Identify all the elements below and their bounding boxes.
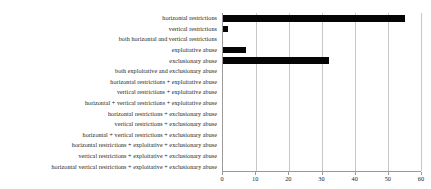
bar-chart: horizontal restrictionsvertical restrict… <box>0 0 431 189</box>
bar <box>223 26 228 33</box>
category-label: horizontal restrictions <box>0 13 220 24</box>
x-tick-label: 10 <box>252 176 258 182</box>
category-label: exploitative abuse <box>0 45 220 56</box>
bar-row <box>223 160 421 171</box>
bar-row <box>223 129 421 140</box>
category-label: vertical restrictions <box>0 24 220 35</box>
category-axis: horizontal restrictionsvertical restrict… <box>0 13 220 172</box>
category-label: horizontal restrictions + exploitative a… <box>0 77 220 88</box>
x-tick-label: 30 <box>318 176 324 182</box>
x-tick-label: 50 <box>385 176 391 182</box>
category-label: both horizontal and vertical restriction… <box>0 34 220 45</box>
category-label: horizontal + vertical restrictions + exc… <box>0 130 220 141</box>
category-label: vertical restrictions + exploitative + e… <box>0 151 220 162</box>
bar <box>223 15 405 22</box>
category-label: horizontal + vertical restrictions + exp… <box>0 98 220 109</box>
bar-row <box>223 87 421 98</box>
bar <box>223 57 329 64</box>
bar-row <box>223 150 421 161</box>
bar-row <box>223 66 421 77</box>
category-label: horizontal restrictions + exploitative +… <box>0 140 220 151</box>
gridline <box>421 13 422 171</box>
bar-row <box>223 139 421 150</box>
bar-row <box>223 76 421 87</box>
x-tick-label: 20 <box>285 176 291 182</box>
category-label: vertical restrictions + exclusionary abu… <box>0 119 220 130</box>
x-tick-label: 0 <box>220 176 223 182</box>
bar-row <box>223 108 421 119</box>
category-label: vertical restrictions + exploitative abu… <box>0 87 220 98</box>
bar-row <box>223 24 421 35</box>
bar <box>223 47 246 54</box>
plot-area <box>222 13 421 172</box>
bar-row <box>223 97 421 108</box>
x-tick-label: 60 <box>418 176 424 182</box>
x-tick-label: 40 <box>352 176 358 182</box>
category-label: horizontal restrictions + exclusionary a… <box>0 108 220 119</box>
category-label: both exploitative and exclusionary abuse <box>0 66 220 77</box>
category-label: exclusionary abuse <box>0 55 220 66</box>
bar-row <box>223 45 421 56</box>
bar-row <box>223 118 421 129</box>
bar-row <box>223 55 421 66</box>
bar-series <box>223 13 421 171</box>
bar-row <box>223 34 421 45</box>
bar-row <box>223 13 421 24</box>
x-axis: 0102030405060 <box>222 172 421 189</box>
category-label: horizontal vertical restrictions + explo… <box>0 161 220 172</box>
